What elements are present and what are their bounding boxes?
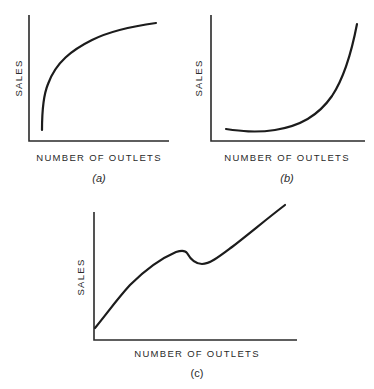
chart-c-xlabel: NUMBER OF OUTLETS	[134, 348, 260, 359]
chart-c-axes	[94, 212, 297, 340]
chart-b-ylabel: SALES	[193, 59, 204, 96]
chart-c-panel-label: (c)	[191, 367, 204, 379]
chart-c-ylabel: SALES	[75, 258, 86, 295]
chart-c-curve	[95, 205, 285, 328]
chart-b: SALES NUMBER OF OUTLETS (b)	[193, 15, 365, 184]
chart-a: SALES NUMBER OF OUTLETS (a)	[13, 15, 169, 184]
figure: SALES NUMBER OF OUTLETS (a) SALES NUMBER…	[0, 0, 374, 389]
chart-a-xlabel: NUMBER OF OUTLETS	[36, 152, 162, 163]
chart-a-ylabel: SALES	[13, 59, 24, 96]
chart-b-panel-label: (b)	[280, 172, 294, 184]
chart-a-curve	[42, 23, 156, 130]
chart-b-xlabel: NUMBER OF OUTLETS	[224, 152, 350, 163]
chart-a-panel-label: (a)	[92, 172, 106, 184]
chart-c: SALES NUMBER OF OUTLETS (c)	[75, 205, 297, 379]
chart-b-curve	[226, 24, 357, 132]
